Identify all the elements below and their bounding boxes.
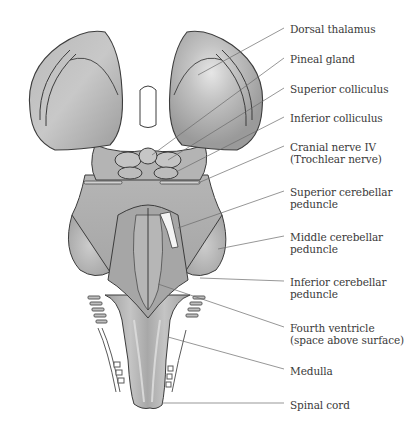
label-pineal-gland: Pineal gland <box>290 53 355 65</box>
label-spinal-cord: Spinal cord <box>290 399 350 411</box>
label-medulla: Medulla <box>290 365 333 377</box>
colliculi-area <box>84 145 207 184</box>
label-dorsal-thalamus: Dorsal thalamus <box>290 23 376 35</box>
label-middle-cerebellar-peduncle: Middle cerebellar peduncle <box>290 231 383 255</box>
label-superior-colliculus: Superior colliculus <box>290 83 388 95</box>
label-inferior-cerebellar-peduncle: Inferior cerebellar peduncle <box>290 276 386 300</box>
label-fourth-ventricle: Fourth ventricle (space above surface) <box>290 322 404 346</box>
label-superior-cerebellar-peduncle: Superior cerebellar peduncle <box>290 186 392 210</box>
brainstem-diagram: Dorsal thalamus Pineal gland Superior co… <box>0 0 410 428</box>
label-inferior-colliculus: Inferior colliculus <box>290 112 383 124</box>
thalamus-shapes <box>29 31 262 150</box>
label-cranial-nerve-iv: Cranial nerve IV (Trochlear nerve) <box>290 141 382 165</box>
